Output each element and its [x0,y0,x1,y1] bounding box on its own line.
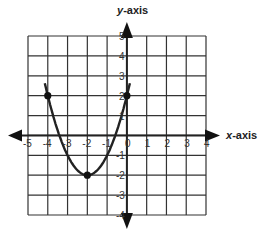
y-tick-label: -1 [116,150,125,161]
x-tick-label: -2 [82,138,91,149]
x-tick-label: -1 [102,138,111,149]
tick-labels: -5-4-3-2-10123454321-1-2-3-4 [23,31,210,221]
y-tick-label: -4 [116,210,125,221]
axes [8,22,220,229]
x-tick-label: -5 [23,138,32,149]
x-tick-label: -4 [43,138,52,149]
y-tick-label: 2 [119,91,125,102]
y-tick-label: -3 [116,190,125,201]
y-tick-label: 1 [119,111,125,122]
x-tick-label: -3 [63,138,72,149]
x-tick-label: 1 [145,138,151,149]
y-tick-label: 4 [119,51,125,62]
point-marker [84,172,91,179]
y-tick-label: -2 [116,170,125,181]
point-marker [44,92,51,99]
x-axis-title: x-axis [225,129,257,141]
x-axis-left-arrow-icon [8,129,22,141]
x-tick-label: 0 [125,138,131,149]
coordinate-plane: -5-4-3-2-10123454321-1-2-3-4 y-axis x-ax… [0,0,267,234]
x-tick-label: 2 [164,138,170,149]
y-tick-label: 3 [119,71,125,82]
x-tick-label: 4 [204,138,210,149]
x-tick-label: 3 [184,138,190,149]
y-tick-label: 5 [119,31,125,42]
y-axis-title: y-axis [116,4,148,16]
grid [28,36,206,215]
